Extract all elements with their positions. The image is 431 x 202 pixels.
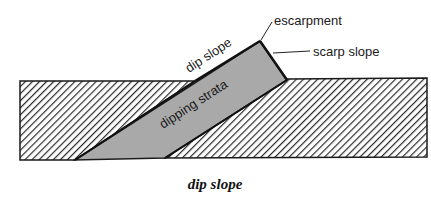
diagram-caption: dip slope [188,176,243,192]
scarp-slope-leader [273,51,310,53]
scarp-slope-label: scarp slope [313,44,379,59]
escarpment-leader [261,22,272,40]
dip-slope-diagram: escarpment scarp slope dip slope dipping… [0,0,431,202]
escarpment-label: escarpment [274,13,342,28]
